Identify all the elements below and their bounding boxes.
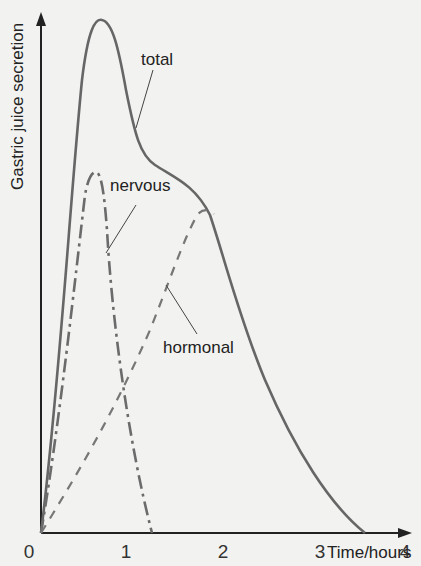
nervous-label: nervous: [110, 176, 170, 196]
x-tick-2: 2: [218, 541, 229, 563]
x-tick-0: 0: [24, 541, 35, 563]
x-tick-3: 3: [315, 541, 326, 563]
x-axis-arrow-icon: [398, 528, 412, 538]
x-axis-label: Time/hours: [327, 543, 411, 563]
nervous-leader-line: [106, 205, 136, 253]
total-leader-line: [136, 70, 153, 128]
chart-plot: [0, 0, 421, 566]
nervous-curve: [41, 172, 152, 533]
chart-figure: Gastric juice secretion total nervous ho…: [0, 0, 421, 566]
total-curve: [41, 20, 365, 533]
hormonal-leader-line: [166, 285, 197, 334]
y-axis-label: Gastric juice secretion: [8, 30, 28, 190]
x-tick-1: 1: [121, 541, 132, 563]
hormonal-label: hormonal: [163, 338, 234, 358]
y-axis-arrow-icon: [36, 12, 46, 26]
total-label: total: [141, 50, 173, 70]
